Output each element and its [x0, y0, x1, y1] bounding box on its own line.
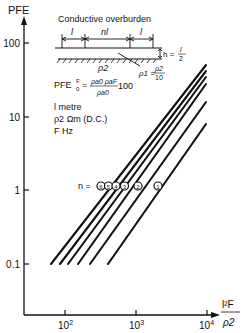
svg-text:100: 100	[118, 81, 133, 91]
y-tick-100: 100	[3, 38, 20, 49]
x-tick-100: 102	[58, 319, 73, 331]
x-axis-label-denominator: ρ2	[222, 317, 235, 328]
rho1-numerator: ρ2	[154, 65, 163, 73]
curve-n4	[68, 77, 206, 264]
inset-title: Conductive overburden	[58, 14, 151, 24]
pfe-chart: 100 10 1 0.1 102 103 104 PFE l²F ρ2 Cond…	[0, 0, 242, 333]
rho2-label: ρ2	[97, 63, 108, 73]
electrode-array-diagram	[55, 34, 162, 66]
spacing-nl: nl	[101, 27, 109, 37]
curve-n3	[78, 84, 206, 264]
spacing-l-left: l	[71, 27, 74, 37]
unit-rho: ρ2 Ωm (D.C.)	[54, 114, 107, 124]
x-axis-label-numerator: l²F	[222, 299, 234, 310]
svg-text:F: F	[76, 78, 80, 84]
axes	[24, 22, 214, 315]
x-ticks	[65, 310, 207, 315]
n-circles: 6 5 4 3 2 1	[97, 182, 162, 190]
svg-text:PFE: PFE	[54, 80, 72, 90]
rho1-denominator: 10	[155, 74, 163, 81]
y-tick-10: 10	[9, 112, 21, 123]
y-axis-arrow-icon	[21, 16, 27, 25]
h-numerator: l	[180, 46, 182, 53]
svg-text:ρa0 ρaF: ρa0 ρaF	[90, 78, 118, 86]
y-tick-1: 1	[14, 185, 20, 196]
pfe-formula: PFE F 0 = ρa0 ρaF ρa0 100	[54, 78, 133, 97]
h-denominator: 2	[179, 55, 183, 62]
x-tick-10000: 104	[199, 319, 214, 331]
unit-l: l metre	[54, 102, 82, 112]
curve-n5	[60, 71, 206, 264]
svg-text:=: =	[82, 80, 87, 90]
y-axis-label: PFE	[8, 4, 29, 16]
spacing-l-right: l	[140, 27, 143, 37]
y-ticks	[24, 43, 29, 264]
rho1-label: ρ1 =	[138, 69, 155, 78]
x-tick-1000: 103	[129, 319, 144, 331]
svg-text:ρa0: ρa0	[96, 89, 109, 97]
curves	[51, 65, 206, 264]
svg-text:0: 0	[76, 86, 80, 92]
n-label-prefix: n =	[78, 181, 91, 191]
x-axis-arrow-icon	[211, 312, 220, 318]
unit-f: F Hz	[54, 126, 73, 136]
y-tick-0-1: 0.1	[6, 259, 20, 270]
h-label: h =	[163, 50, 175, 59]
